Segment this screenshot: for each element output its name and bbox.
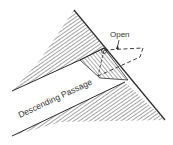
open-arrow-head [116,45,119,49]
descending-passage-diagram: Open Descending Passage [0,0,173,145]
open-label: Open [110,30,130,39]
